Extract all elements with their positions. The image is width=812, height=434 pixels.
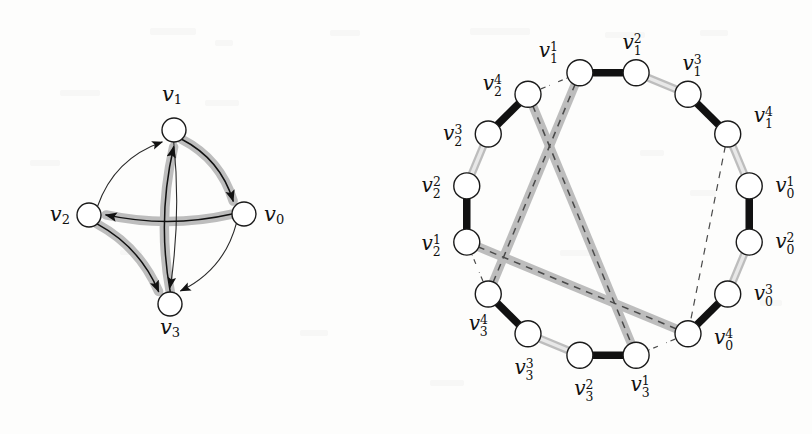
node-label-v2_3: v32 [443, 121, 462, 149]
node-v3_1[interactable] [623, 342, 649, 368]
node-label-v0_3: v30 [754, 281, 773, 309]
ring-edge-v1_3-v1_4 [696, 102, 720, 126]
node-label-v2: v2 [50, 202, 70, 227]
ring-edge-v3_4-v2_1-stub-b [472, 255, 476, 264]
node-label-v3_1: v13 [630, 372, 649, 400]
edge-v1-v0-halo [182, 139, 233, 201]
chord-edges [478, 84, 726, 344]
node-label-v1_4: v41 [754, 103, 773, 131]
ring-edge-v3_2-v3_3 [538, 338, 570, 351]
ring-edge-v3_3-v3_4 [496, 302, 520, 326]
node-v2[interactable] [77, 203, 101, 227]
node-v1_4[interactable] [715, 121, 741, 147]
node-v0_4[interactable] [675, 321, 701, 347]
node-label-v0_4: v40 [714, 325, 733, 353]
node-v0_1[interactable] [736, 173, 762, 199]
node-v0_2[interactable] [736, 229, 762, 255]
node-v1_1[interactable] [567, 60, 593, 86]
node-label-v3_3: v33 [514, 355, 533, 383]
graph-figure-svg: v1v0v2v3 v21v31v41v10v20v30v40v13v23v33v… [0, 0, 812, 434]
ring-edge-v1_2-v1_3 [646, 77, 678, 90]
node-v1[interactable] [162, 118, 186, 142]
node-label-v2_4: v42 [483, 71, 502, 99]
ring-halos [471, 77, 745, 351]
node-v2_2[interactable] [454, 173, 480, 199]
ring-edge-v0_4-v3_1-stub-b [649, 346, 658, 350]
ring-edge-v2_4-v1_1-stub-a [541, 85, 550, 89]
node-v3_3[interactable] [515, 321, 541, 347]
node-label-v0_1: v10 [775, 173, 794, 201]
node-v3_2[interactable] [567, 342, 593, 368]
node-label-v1_1: v11 [539, 38, 558, 66]
edge-v0-v3-thin [181, 223, 237, 291]
node-v3_4[interactable] [475, 281, 501, 307]
ring-edge-v1_4-v0_1 [732, 144, 745, 176]
right-nodes: v21v31v41v10v20v30v40v13v23v33v43v12v22v… [422, 30, 795, 404]
right-graph: v21v31v41v10v20v30v40v13v23v33v43v12v22v… [422, 30, 795, 404]
node-v0_3[interactable] [715, 281, 741, 307]
node-v2_1[interactable] [454, 229, 480, 255]
ring-edge-v3_4-v2_1-stub-a [479, 272, 483, 281]
ring-edge-v2_2-v2_3 [471, 144, 484, 176]
node-label-v1_3: v31 [682, 51, 701, 79]
node-label-v3_4: v43 [469, 311, 488, 339]
ring-edge-v2_3-v2_4 [496, 102, 520, 126]
node-label-v2_1: v12 [422, 231, 441, 259]
node-label-v3: v3 [160, 315, 180, 340]
ring-edges [467, 73, 749, 355]
node-label-v1_2: v21 [622, 30, 641, 58]
left-graph: v1v0v2v3 [50, 82, 284, 340]
node-v1_2[interactable] [623, 60, 649, 86]
node-v1_3[interactable] [675, 81, 701, 107]
node-v0[interactable] [232, 202, 256, 226]
node-label-v0_2: v20 [775, 229, 794, 257]
ring-edge-v0_4-v3_1-stub-a [666, 339, 675, 343]
node-v2_4[interactable] [515, 81, 541, 107]
node-label-v1: v1 [162, 82, 182, 107]
edge-v2-v1-thin [97, 142, 161, 206]
node-v3[interactable] [158, 292, 182, 316]
node-label-v0: v0 [264, 202, 284, 227]
node-v2_3[interactable] [475, 121, 501, 147]
ring-edge-v0_3-v0_4 [696, 302, 720, 326]
ring-edge-v0_2-v0_3 [732, 252, 745, 284]
edge-v2-v3-halo [97, 224, 158, 292]
ring-edge-v2_4-v1_1-stub-b [558, 78, 567, 82]
node-label-v2_2: v22 [422, 173, 441, 201]
figure-container: v1v0v2v3 v21v31v41v10v20v30v40v13v23v33v… [0, 0, 812, 434]
node-label-v3_2: v23 [574, 376, 593, 404]
